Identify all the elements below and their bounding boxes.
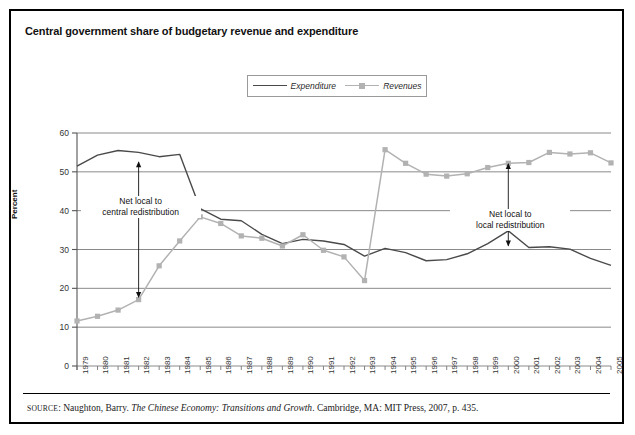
- annotation-right: Net local to local redistribution: [450, 209, 570, 231]
- x-axis-tick-label: 1995: [409, 356, 418, 374]
- x-axis-tick-label: 1979: [81, 356, 90, 374]
- x-axis-tick-label: 1983: [163, 356, 172, 374]
- source-prefix: SOURCE: [27, 404, 58, 413]
- y-axis-tick-label: 60: [43, 128, 69, 138]
- x-axis-tick-label: 1996: [430, 356, 439, 374]
- x-axis-tick-label: 1981: [122, 356, 131, 374]
- x-axis-tick-label: 1982: [142, 356, 151, 374]
- x-axis-tick-label: 1994: [389, 356, 398, 374]
- y-axis-tick-label: 30: [43, 245, 69, 255]
- x-axis-tick-label: 2001: [532, 356, 541, 374]
- x-axis-tick-label: 2003: [573, 356, 582, 374]
- x-axis-tick-label: 1989: [286, 356, 295, 374]
- chart-plot-area: Percent 0102030405060 197919801981198219…: [11, 11, 626, 426]
- x-axis-tick-label: 2002: [553, 356, 562, 374]
- annotation-left-line1: Net local to: [119, 196, 162, 206]
- x-axis-tick-label: 1992: [348, 356, 357, 374]
- y-axis-tick-label: 20: [43, 283, 69, 293]
- source-publication: . Cambridge, MA: MIT Press, 2007, p. 435…: [312, 403, 478, 413]
- x-axis-tick-label: 1980: [101, 356, 110, 374]
- source-author: : Naughton, Barry.: [58, 403, 131, 413]
- y-axis-tick-label: 0: [43, 361, 69, 371]
- x-axis-tick-label: 2004: [594, 356, 603, 374]
- x-axis-tick-label: 1985: [204, 356, 213, 374]
- source-divider: [23, 393, 610, 394]
- x-axis-tick-label: 1990: [306, 356, 315, 374]
- x-axis-tick-label: 1984: [183, 356, 192, 374]
- x-axis-tick-label: 1987: [245, 356, 254, 374]
- annotation-left: Net local to central redistribution: [81, 196, 201, 218]
- source-note: SOURCE: Naughton, Barry. The Chinese Eco…: [27, 403, 607, 413]
- annotation-right-line1: Net local to: [489, 209, 532, 219]
- x-axis-tick-label: 1997: [450, 356, 459, 374]
- x-axis-tick-label: 2005: [615, 356, 624, 374]
- x-axis-tick-label: 1993: [368, 356, 377, 374]
- x-axis-tick-label: 1986: [224, 356, 233, 374]
- x-axis-tick-label: 1999: [491, 356, 500, 374]
- y-axis-tick-label: 40: [43, 206, 69, 216]
- source-work-title: The Chinese Economy: Transitions and Gro…: [131, 403, 312, 413]
- x-axis-tick-label: 1998: [471, 356, 480, 374]
- figure-frame: Central government share of budgetary re…: [9, 9, 624, 424]
- annotation-left-line2: central redistribution: [102, 207, 179, 217]
- x-axis-tick-label: 1991: [327, 356, 336, 374]
- x-axis-tick-label: 1988: [265, 356, 274, 374]
- x-axis-tick-label: 2000: [512, 356, 521, 374]
- annotation-right-line2: local redistribution: [476, 220, 545, 230]
- y-axis-tick-label: 50: [43, 167, 69, 177]
- y-axis-tick-label: 10: [43, 322, 69, 332]
